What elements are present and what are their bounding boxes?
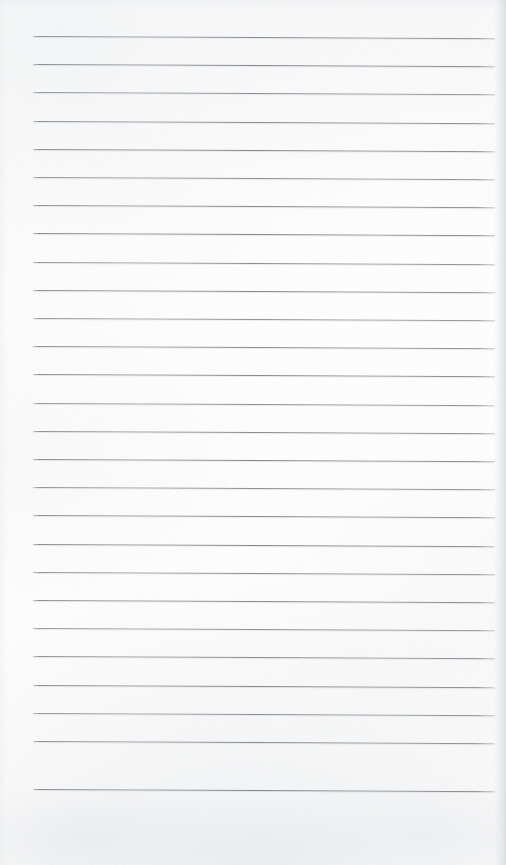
paper-background (0, 0, 506, 865)
notebook-page (0, 0, 506, 865)
